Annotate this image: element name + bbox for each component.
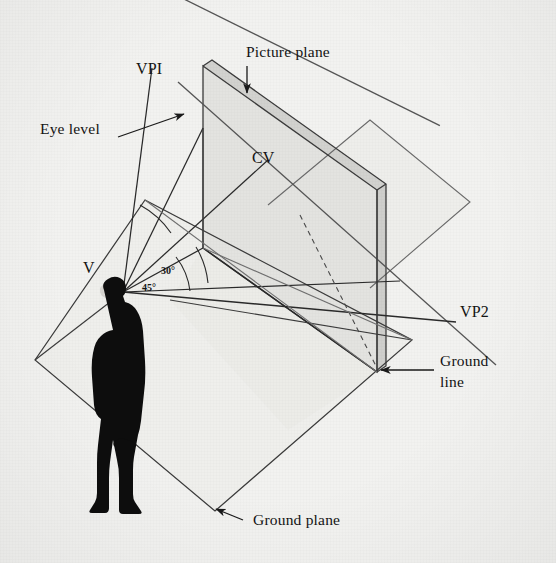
label-eye-level: Eye level — [40, 120, 100, 137]
label-picture-plane: Picture plane — [246, 43, 330, 60]
label-vp2: VP2 — [460, 303, 489, 321]
perspective-diagram: Picture plane Eye level VPI VP2 CV V Gro… — [0, 0, 556, 563]
label-vp1: VPI — [136, 60, 162, 78]
label-angle-30: 30° — [161, 265, 175, 276]
label-ground-line-row1: Ground — [440, 352, 489, 369]
eye-level-line — [145, 0, 440, 127]
diagram-canvas — [0, 0, 556, 563]
label-ground-plane: Ground plane — [253, 511, 340, 528]
ground-plane-leader-arrow — [216, 509, 243, 520]
label-cv: CV — [252, 149, 275, 167]
label-station-point-v: V — [83, 259, 95, 277]
eye-level-leader-arrow — [118, 114, 184, 137]
label-angle-45: 45° — [142, 282, 156, 293]
label-ground-line-row2: line — [440, 373, 464, 390]
